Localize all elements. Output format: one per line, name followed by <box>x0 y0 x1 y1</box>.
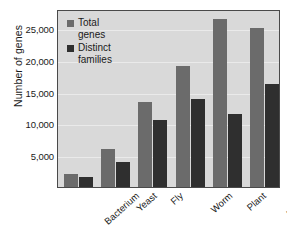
legend-swatch-icon <box>67 20 74 27</box>
bar <box>138 102 152 187</box>
legend-label: Total genes <box>78 17 105 40</box>
y-axis-tick-label: 25,000 <box>26 24 54 35</box>
bar <box>176 66 190 187</box>
bar-group <box>138 11 167 187</box>
gene-count-bar-chart: Number of genes 5,00010,00015,00020,0002… <box>0 0 287 247</box>
bar <box>116 162 130 187</box>
bar <box>79 177 93 187</box>
legend-entry: Distinct families <box>67 42 112 65</box>
y-axis-tick-label: 10,000 <box>26 119 54 130</box>
legend-swatch-icon <box>67 45 74 52</box>
y-axis-tick-label: 5,000 <box>31 151 54 162</box>
x-axis-category-label: Worm <box>209 190 235 215</box>
bar <box>213 19 227 187</box>
bar-group <box>250 11 279 187</box>
bar-group <box>213 11 242 187</box>
bar <box>153 120 167 187</box>
legend-entry: Total genes <box>67 17 112 40</box>
bar <box>191 99 205 187</box>
bar <box>250 28 264 187</box>
plot-area: Total genesDistinct families <box>57 10 280 188</box>
bar <box>265 84 279 187</box>
legend-label: Distinct families <box>78 42 112 65</box>
chart-legend: Total genesDistinct families <box>67 17 112 67</box>
y-axis-tick-label: 15,000 <box>26 87 54 98</box>
x-axis-category-labels: BacteriumYeastFlyWormPlantHuman <box>57 190 280 245</box>
bar <box>101 149 115 187</box>
x-axis-category-label: Plant <box>245 190 268 213</box>
y-axis-tick-labels: 5,00010,00015,00020,00025,000 <box>14 10 54 188</box>
bar <box>228 114 242 187</box>
y-axis-tick-label: 20,000 <box>26 55 54 66</box>
bar <box>64 174 78 187</box>
x-axis-category-label: Fly <box>168 190 185 207</box>
x-axis-category-label: Human <box>284 190 287 219</box>
x-axis-category-label: Bacterium <box>102 190 141 227</box>
bar-group <box>176 11 205 187</box>
